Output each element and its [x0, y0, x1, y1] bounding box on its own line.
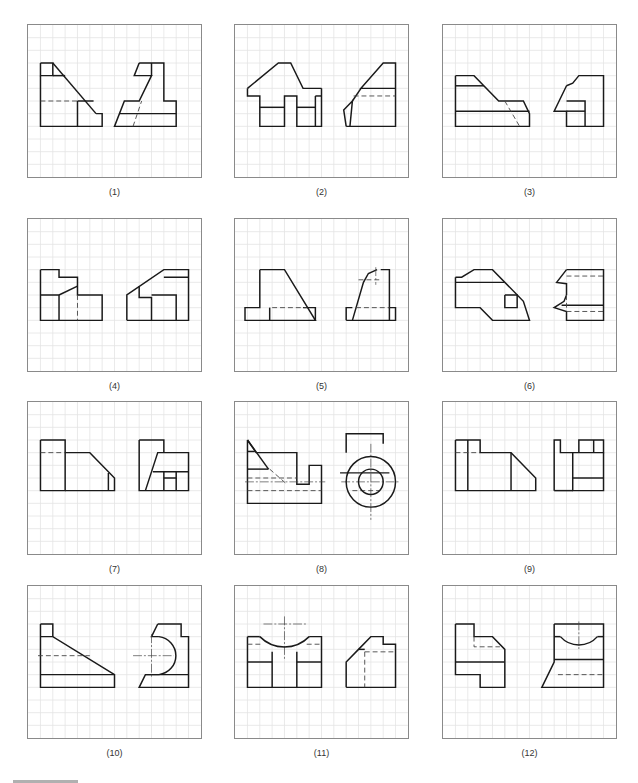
figure-panel-1 — [27, 24, 202, 178]
figure-label: (3) — [442, 187, 617, 197]
visible-edge — [152, 624, 159, 637]
drawing-canvas — [443, 25, 616, 177]
visible-edge — [40, 63, 52, 76]
figure-label: (4) — [27, 381, 202, 391]
figure-label: (8) — [234, 564, 409, 574]
figure-panel-6 — [442, 218, 617, 372]
figure-label: (1) — [27, 187, 202, 197]
visible-edge — [346, 308, 352, 321]
drawing-canvas — [28, 219, 201, 371]
figure-panel-12 — [442, 585, 617, 739]
figure-label: (10) — [27, 748, 202, 758]
figure-label: (5) — [234, 381, 409, 391]
figure-label: (11) — [234, 748, 409, 758]
visible-edge — [352, 88, 361, 101]
figure-label: (6) — [442, 381, 617, 391]
drawing-canvas — [443, 586, 616, 738]
drawing-canvas — [235, 219, 408, 371]
visible-edge — [573, 453, 604, 491]
drawing-canvas — [443, 402, 616, 554]
figure-panel-9 — [442, 401, 617, 555]
grid-lines — [443, 219, 616, 371]
figure-label: (7) — [27, 564, 202, 574]
drawing-canvas — [443, 219, 616, 371]
visible-edge — [40, 624, 52, 637]
figure-panel-8 — [234, 401, 409, 555]
figure-panel-7 — [27, 401, 202, 555]
drawing-canvas — [28, 402, 201, 554]
drawing-canvas — [235, 25, 408, 177]
visible-edge — [247, 440, 268, 469]
visible-edge — [115, 63, 177, 126]
figure-panel-3 — [442, 24, 617, 178]
grid-lines — [443, 25, 616, 177]
drawing-canvas — [28, 586, 201, 738]
figure-panel-5 — [234, 218, 409, 372]
figure-panel-2 — [234, 24, 409, 178]
visible-edge — [139, 286, 151, 320]
drawing-canvas — [28, 25, 201, 177]
visible-edge — [59, 286, 77, 295]
visible-edge — [164, 472, 176, 478]
hidden-edge — [474, 637, 500, 647]
visible-edge — [542, 624, 604, 687]
drawing-canvas — [235, 586, 408, 738]
figure-panel-10 — [27, 585, 202, 739]
visible-edge — [346, 434, 383, 453]
visible-edge — [505, 295, 517, 308]
grid-lines — [235, 219, 408, 371]
figure-panel-11 — [234, 585, 409, 739]
figure-label: (9) — [442, 564, 617, 574]
figure-label: (12) — [442, 748, 617, 758]
figure-panel-4 — [27, 218, 202, 372]
drawing-canvas — [235, 402, 408, 554]
figure-label: (2) — [234, 187, 409, 197]
